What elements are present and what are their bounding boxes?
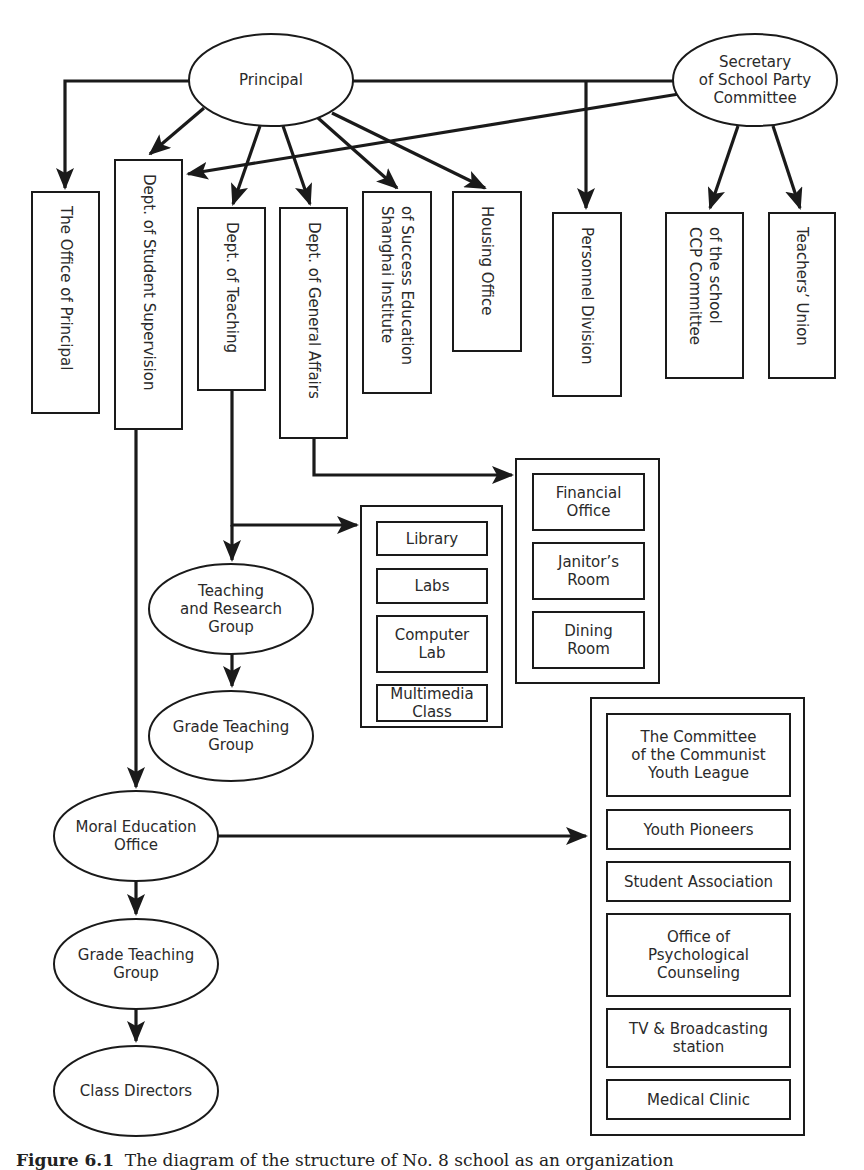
edge-principal-student-supervision [150,108,204,154]
dept-teachers-union-label: Teachers’ Union [793,226,811,346]
general-affairs-unit-label-line: Financial [556,484,622,502]
dept-label-line: Housing Office [478,206,496,316]
moral-unit-label-line: Psychological [648,946,749,964]
dept-office-of-principal-label: The Office of Principal [57,205,75,370]
teaching-research-group-label-line: Teaching [197,582,264,600]
general-affairs-unit-label-line: Room [567,640,610,658]
teaching-unit-label-line: Class [412,703,452,721]
dept-shanghai-institute-box [363,192,431,393]
dept-label-line: Dept. of Student Supervision [140,174,158,390]
dept-label-line: Teachers’ Union [793,226,811,346]
teaching-unit-label-line: Lab [418,644,445,662]
dept-label-line: Dept. of Teaching [223,222,241,353]
moral-unit-label-line: Counseling [657,964,740,982]
dept-label-line: The Office of Principal [57,205,75,370]
dept-student-supervision-label: Dept. of Student Supervision [140,174,158,390]
moral-unit-label: Youth Pioneers [642,821,753,839]
grade-teaching-group-2-label-line: Grade Teaching [78,946,194,964]
dept-label-line: of the school [706,227,724,324]
dept-personnel-division-label: Personnel Division [578,227,596,365]
secretary-node-label-line: Committee [713,89,796,107]
moral-unit-label-line: Youth Pioneers [642,821,753,839]
edge-secretary-union [773,126,800,208]
general-affairs-unit-label-line: Room [567,571,610,589]
moral-education-office-label-line: Office [114,836,158,854]
dept-label-line: CCP Committee [686,227,704,345]
dept-label-line: Shanghai Institute [378,206,396,343]
teaching-unit-label-line: Labs [415,577,450,595]
teaching-unit-label: Library [406,530,459,548]
class-directors-label: Class Directors [80,1082,192,1100]
moral-unit-label: Student Association [624,873,773,891]
general-affairs-unit-label-line: Office [567,502,611,520]
caption-label: Figure 6.1 [16,1150,114,1170]
figure-caption: Figure 6.1 The diagram of the structure … [16,1150,674,1170]
principal-node-label-line: Principal [239,71,303,89]
principal-node-label: Principal [239,71,303,89]
dept-label-line: Dept. of General Affairs [305,222,323,399]
teaching-unit-label-line: Multimedia [390,685,473,703]
dept-housing-office-label: Housing Office [478,206,496,316]
moral-unit-label: Medical Clinic [647,1091,750,1109]
grade-teaching-group-2-label-line: Group [113,964,159,982]
dept-label-line: Personnel Division [578,227,596,365]
dept-general-affairs-label: Dept. of General Affairs [305,222,323,399]
general-affairs-unit-label-line: Dining [564,622,612,640]
edge-principal-general-affairs [283,126,310,204]
teaching-unit-label-line: Computer [395,626,470,644]
grade-teaching-group-label-line: Grade Teaching [173,718,289,736]
dept-teaching-label: Dept. of Teaching [223,222,241,353]
class-directors-label-line: Class Directors [80,1082,192,1100]
dept-label-line: of Success Education [398,206,416,365]
caption-text: The diagram of the structure of No. 8 sc… [125,1150,674,1170]
secretary-node-label-line: of School Party [699,71,811,89]
teaching-unit-label-line: Library [406,530,459,548]
moral-education-office-label-line: Moral Education [75,818,196,836]
general-affairs-unit-label-line: Janitor’s [557,553,619,571]
teaching-unit-label: Labs [415,577,450,595]
dept-ccp-committee-box [666,213,743,378]
moral-unit-label-line: TV & Broadcasting [628,1020,768,1038]
edge-secretary-ccp [710,126,738,208]
grade-teaching-group-label-line: Group [208,736,254,754]
moral-unit-label-line: The Committee [640,728,757,746]
moral-unit-label-line: station [673,1038,725,1056]
edge-principal-shanghai [318,118,397,188]
moral-unit-label-line: Student Association [624,873,773,891]
moral-unit-label-line: Office of [667,928,731,946]
moral-unit-label-line: Youth League [647,764,749,782]
moral-unit-label-line: of the Communist [631,746,765,764]
teaching-research-group-label-line: Group [208,618,254,636]
nodes: PrincipalSecretaryof School PartyCommitt… [32,34,837,1136]
moral-unit-label: The Committeeof the CommunistYouth Leagu… [631,728,765,782]
edge-general-affairs-units [314,438,512,475]
teaching-research-group-label-line: and Research [180,600,282,618]
general-affairs-unit-label: DiningRoom [564,622,612,658]
moral-unit-label-line: Medical Clinic [647,1091,750,1109]
secretary-node-label-line: Secretary [719,53,791,71]
